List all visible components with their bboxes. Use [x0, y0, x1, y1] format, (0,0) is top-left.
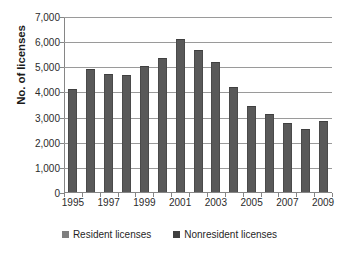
chart-legend: Resident licensesNonresident licenses: [0, 229, 339, 240]
y-tick-label: 3,000: [18, 112, 60, 123]
bar: [68, 89, 77, 192]
bar: [283, 123, 292, 192]
y-tick-mark: [60, 168, 64, 169]
x-tick-label: 2009: [303, 197, 339, 208]
x-tick-label: 1997: [89, 197, 129, 208]
bar: [247, 106, 256, 192]
y-tick-label: 1,000: [18, 162, 60, 173]
legend-swatch-icon: [62, 231, 69, 238]
bar: [229, 87, 238, 192]
bar: [158, 58, 167, 193]
bar: [122, 75, 131, 192]
x-tick-label: 1995: [53, 197, 93, 208]
y-tick-label: 7,000: [18, 12, 60, 23]
bar: [86, 69, 95, 192]
x-tick-label: 1999: [124, 197, 164, 208]
x-tick-label: 2007: [267, 197, 307, 208]
legend-label: Nonresident licenses: [184, 229, 277, 240]
bar: [194, 50, 203, 192]
y-tick-label: 5,000: [18, 62, 60, 73]
y-tick-mark: [60, 92, 64, 93]
x-tick-label: 2001: [160, 197, 200, 208]
y-tick-mark: [60, 17, 64, 18]
plot-area: [64, 17, 332, 193]
legend-item[interactable]: Nonresident licenses: [173, 229, 277, 240]
y-tick-label: 2,000: [18, 137, 60, 148]
bar: [265, 114, 274, 192]
x-tick-label: 2005: [232, 197, 272, 208]
gridline: [64, 42, 332, 43]
y-tick-label: 4,000: [18, 87, 60, 98]
y-tick-mark: [60, 67, 64, 68]
legend-item[interactable]: Resident licenses: [62, 229, 151, 240]
gridline: [64, 17, 332, 18]
y-tick-label: 6,000: [18, 37, 60, 48]
bar: [301, 129, 310, 192]
bar: [319, 121, 328, 192]
y-tick-mark: [60, 143, 64, 144]
y-axis-tick-labels: 7,0006,0005,0004,0003,0002,0001,0000: [18, 0, 60, 253]
x-tick-label: 2003: [196, 197, 236, 208]
bar: [211, 62, 220, 192]
bar: [104, 74, 113, 192]
x-axis-tick-labels: 19951997199920012003200520072009: [64, 197, 332, 213]
bar: [176, 39, 185, 192]
x-axis-line: [64, 192, 332, 193]
legend-label: Resident licenses: [73, 229, 151, 240]
legend-swatch-icon: [173, 231, 180, 238]
y-tick-mark: [60, 118, 64, 119]
bar: [140, 66, 149, 192]
bar-chart: No. of licenses 7,0006,0005,0004,0003,00…: [0, 0, 339, 253]
y-tick-mark: [60, 42, 64, 43]
